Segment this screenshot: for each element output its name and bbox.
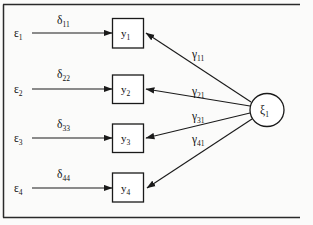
error-path-label-2: δ22 <box>57 68 70 83</box>
error-subscript-4: 4 <box>19 188 23 197</box>
loading-arrow-4 <box>147 119 252 188</box>
error-subscript-3: 3 <box>19 138 23 147</box>
loading-subscript-4: 41 <box>197 139 205 148</box>
error-path-label-4: δ44 <box>57 168 70 183</box>
error-path-subscript-2: 22 <box>62 74 70 83</box>
error-subscript-2: 2 <box>19 89 23 98</box>
indicator-subscript-4: 4 <box>127 188 131 197</box>
loading-label-1: γ11 <box>191 48 205 63</box>
loading-subscript-2: 21 <box>197 91 205 100</box>
loading-label-2: γ21 <box>191 85 205 100</box>
indicator-subscript-3: 3 <box>127 138 131 147</box>
latent-subscript: 1 <box>265 110 269 119</box>
error-label-1: ε1 <box>14 27 23 42</box>
loading-subscript-1: 11 <box>197 54 204 63</box>
error-label-3: ε3 <box>14 132 23 147</box>
indicator-subscript-1: 1 <box>127 33 131 42</box>
loading-label-3: γ31 <box>191 110 205 125</box>
error-label-2: ε2 <box>14 83 23 98</box>
path-diagram-canvas: ε1 δ11 y1 ε2 δ22 y2 ε3 δ33 y3 <box>0 0 313 225</box>
error-path-subscript-4: 44 <box>62 174 70 183</box>
error-path-subscript-3: 33 <box>62 124 70 133</box>
error-path-label-3: δ33 <box>57 118 70 133</box>
error-label-4: ε4 <box>14 182 23 197</box>
indicator-subscript-2: 2 <box>127 89 131 98</box>
error-path-label-1: δ11 <box>57 14 70 29</box>
loading-subscript-3: 31 <box>197 116 205 125</box>
figure-container: ε1 δ11 y1 ε2 δ22 y2 ε3 δ33 y3 <box>0 0 313 225</box>
error-subscript-1: 1 <box>19 33 23 42</box>
error-path-subscript-1: 11 <box>62 20 69 29</box>
loading-label-4: γ41 <box>191 133 205 148</box>
